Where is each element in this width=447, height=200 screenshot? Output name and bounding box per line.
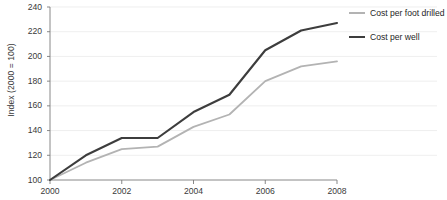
legend-item-cost-per-foot-drilled[interactable]: Cost per foot drilled — [349, 8, 447, 18]
legend-label: Cost per well — [370, 33, 420, 42]
chart-legend: Cost per foot drilled Cost per well — [349, 8, 447, 56]
series-lines — [50, 23, 337, 180]
legend-swatch-dark-line — [349, 36, 365, 38]
legend-swatch-light-line — [349, 12, 365, 14]
line-chart: Index (2000 = 100) 100120140160180200220… — [0, 0, 447, 200]
axis-lines — [50, 7, 337, 180]
series-line — [50, 61, 337, 180]
legend-item-cost-per-well[interactable]: Cost per well — [349, 32, 447, 42]
legend-label: Cost per foot drilled — [370, 9, 445, 18]
series-line — [50, 23, 337, 180]
